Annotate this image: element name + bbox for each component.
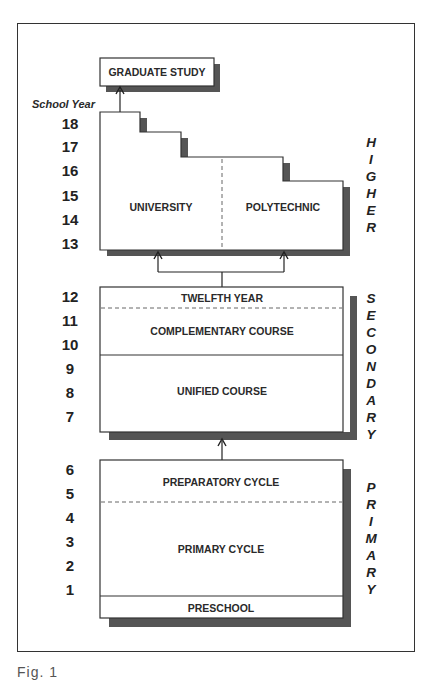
svg-text:Y: Y [366,427,377,442]
year-label: 7 [66,408,74,425]
year-label: 17 [62,138,79,155]
svg-text:S: S [366,291,375,306]
svg-text:E: E [366,203,376,218]
year-label: 5 [66,485,74,502]
svg-text:H: H [366,186,376,201]
svg-text:N: N [366,359,376,374]
year-label: 13 [62,235,79,252]
svg-text:E: E [366,308,376,323]
year-label: 8 [66,384,74,401]
university-label: UNIVERSITY [129,201,192,213]
year-label: 10 [62,336,79,353]
svg-text:A: A [365,393,376,408]
graduate-study-box: GRADUATE STUDY [100,58,220,92]
svg-text:Y: Y [366,582,377,597]
svg-text:I: I [369,514,373,529]
side-label-higher: H I G H E R [366,135,377,235]
svg-text:O: O [366,342,377,357]
year-label: 1 [66,581,74,598]
svg-text:I: I [369,152,373,167]
svg-text:D: D [366,376,376,391]
secondary-block: TWELFTH YEAR COMPLEMENTARY COURSE UNIFIE… [100,287,357,440]
axis-title: School Year [32,98,96,110]
preschool-label: PRESCHOOL [188,602,255,614]
year-label: 15 [62,187,79,204]
unified-course-label: UNIFIED COURSE [177,385,267,397]
year-label: 14 [62,211,79,228]
year-label: 11 [62,312,78,329]
svg-text:P: P [366,480,376,495]
svg-text:R: R [366,565,376,580]
year-label: 4 [66,509,75,526]
year-labels: 18 17 16 15 14 13 12 11 10 9 8 7 6 5 4 3… [62,115,79,598]
arrow-to-graduate [116,87,124,112]
arrow-to-secondary [218,439,226,460]
year-label: 3 [66,533,74,550]
polytechnic-label: POLYTECHNIC [246,201,321,213]
twelfth-year-label: TWELFTH YEAR [181,292,263,304]
svg-text:G: G [366,169,377,184]
svg-text:C: C [366,325,376,340]
year-label: 9 [66,360,74,377]
year-label: 18 [62,115,79,132]
arrows-to-higher [154,252,288,287]
year-label: 2 [66,557,74,574]
complementary-course-label: COMPLEMENTARY COURSE [150,325,293,337]
svg-text:A: A [365,548,376,563]
svg-text:R: R [366,410,376,425]
side-label-secondary: S E C O N D A R Y [365,291,377,442]
figure-caption: Fig. 1 [17,664,58,680]
year-label: 16 [62,162,79,179]
year-label: 12 [62,288,79,305]
side-label-primary: P R I M A R Y [365,480,377,597]
primary-cycle-label: PRIMARY CYCLE [178,543,264,555]
year-label: 6 [66,461,74,478]
graduate-label: GRADUATE STUDY [108,66,205,78]
svg-text:R: R [366,220,376,235]
svg-text:M: M [365,531,377,546]
primary-block: PREPARATORY CYCLE PRIMARY CYCLE PRESCHOO… [100,460,351,627]
preparatory-cycle-label: PREPARATORY CYCLE [163,476,280,488]
svg-text:R: R [366,497,376,512]
higher-block: UNIVERSITY POLYTECHNIC [100,112,350,256]
svg-text:H: H [366,135,376,150]
